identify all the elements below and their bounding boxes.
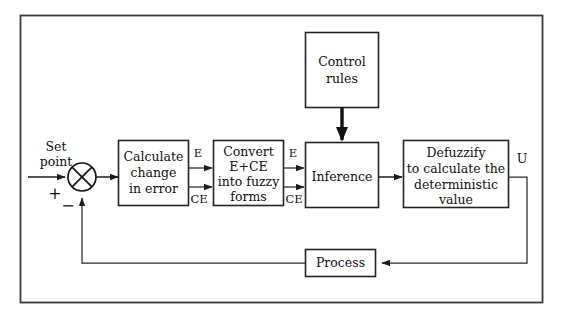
control-rules-label-line1: Control [318, 54, 366, 69]
process-label: Process [316, 255, 365, 270]
defuzzify-label-line4: value [438, 192, 473, 207]
inference-label: Inference [312, 169, 373, 184]
calculate-error-label-line1: Calculate [124, 149, 184, 164]
signal-label-u: U [517, 151, 528, 166]
fuzzify-label-line4: forms [230, 189, 266, 204]
fuzzify-label-line3: into fuzzy [218, 174, 280, 189]
signal-label-ce-2: CE [285, 192, 302, 206]
link-process-to-summing-junction [82, 198, 306, 263]
signal-label-e-1: E [194, 146, 202, 160]
setpoint-label-line2: point [40, 154, 73, 169]
defuzzify-label-line1: Defuzzify [427, 145, 487, 160]
calculate-error-label-line3: in error [129, 181, 178, 196]
defuzzify-label-line3: deterministic [414, 177, 498, 192]
signal-label-ce-1: CE [190, 192, 207, 206]
defuzzify-label-line2: to calculate the [407, 161, 505, 176]
calculate-error-label-line2: change [131, 165, 177, 180]
control-rules-label-line2: rules [326, 71, 358, 86]
minus-sign-label: − [61, 196, 74, 215]
plus-sign-label: + [48, 184, 61, 203]
fuzzify-label-line1: Convert [223, 144, 274, 159]
diagram-canvas: Set point + − Calculate change in error … [0, 0, 561, 318]
signal-label-e-2: E [289, 146, 297, 160]
fuzzy-control-block-diagram: Set point + − Calculate change in error … [0, 0, 561, 318]
setpoint-label-line1: Set [46, 139, 67, 154]
fuzzify-label-line2: E+CE [229, 159, 267, 174]
